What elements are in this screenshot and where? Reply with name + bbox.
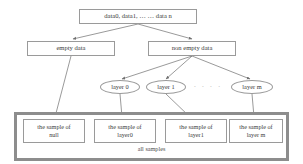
node-sample-layer0: the sample of layer0	[94, 119, 156, 143]
node-sample-layerm: the sample of layer m	[229, 119, 283, 143]
ellipsis-dots: · · · ·	[192, 80, 224, 94]
edge-nonempty-to-layer1	[166, 56, 192, 79]
edge-nonempty-to-layerm	[192, 56, 250, 79]
node-layer-1: layer 1	[146, 80, 186, 94]
node-sample-null-line2: null	[49, 132, 59, 139]
edge-root-to-empty	[73, 24, 138, 39]
diagram-canvas: data0, data1, … … data n empty data non …	[0, 0, 303, 164]
node-sample-layer1-line1: the sample of	[179, 124, 212, 131]
edge-root-to-nonempty	[138, 24, 192, 39]
node-root-data: data0, data1, … … data n	[79, 9, 197, 24]
node-sample-null: the sample of null	[23, 119, 85, 143]
node-layer-0: layer 0	[100, 80, 140, 94]
node-sample-layer0-line2: layer0	[117, 132, 132, 139]
node-sample-null-line1: the sample of	[37, 124, 70, 131]
node-sample-layerm-line1: the sample of	[239, 124, 272, 131]
node-layer-m: layer m	[231, 80, 273, 94]
edge-empty-to-sample-null	[55, 56, 71, 117]
node-sample-layerm-line2: layer m	[247, 132, 266, 139]
edge-nonempty-to-layer0	[122, 56, 192, 79]
node-sample-layer1-line2: layer1	[188, 132, 203, 139]
all-samples-label: all samples	[14, 142, 289, 154]
node-sample-layer1: the sample of layer1	[165, 119, 227, 143]
node-non-empty-data: non empty data	[148, 41, 236, 56]
node-sample-layer0-line1: the sample of	[108, 124, 141, 131]
node-empty-data: empty data	[27, 41, 115, 56]
